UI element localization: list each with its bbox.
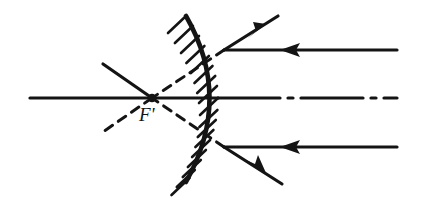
reflected-ray-upper-arrowhead bbox=[248, 22, 266, 38]
virtual-ray-upper-beyond-focus bbox=[103, 64, 152, 98]
reflected-rays-group bbox=[224, 16, 282, 184]
reflected-ray-lower bbox=[224, 147, 282, 184]
focal-point-label: F' bbox=[139, 104, 155, 126]
virtual-focal-point-marker bbox=[148, 94, 156, 102]
reflected-ray-upper bbox=[224, 16, 278, 50]
optics-ray-diagram: F' bbox=[0, 0, 424, 197]
ray-diagram-canvas bbox=[0, 0, 424, 197]
